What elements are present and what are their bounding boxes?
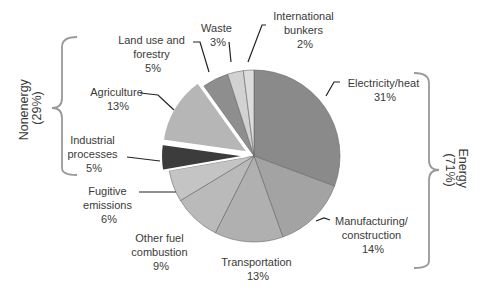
label-transportation: Transportation 13% [221,256,295,282]
label-electricity: Electricity/heat 31% [348,77,423,103]
leader-waste [229,42,231,62]
label-agriculture: Agriculture 13% [90,86,146,112]
leader-land-use [193,42,209,72]
nonenergy-label: Nonenergy (29%) [17,76,44,141]
label-manufacturing: Manufacturing/ construction 14% [335,215,411,255]
pie-slices [161,70,340,242]
energy-label: Energy (71%) [443,148,470,191]
label-other-fuel: Other fuel combustion 9% [131,232,190,272]
label-industrial: Industrial processes 5% [67,134,120,174]
leader-bunkers [248,25,266,62]
energy-bracket [414,73,439,268]
label-bunkers: International bunkers 2% [273,10,337,50]
leader-manufacturing [316,218,330,221]
label-waste: Waste 3% [201,22,235,48]
label-land-use: Land use and forestry 5% [118,34,188,74]
pie-chart: Nonenergy (29%) Energy (71%) Electricity… [0,0,491,292]
leader-industrial [127,157,160,161]
leader-electricity [326,82,340,96]
label-fugitive: Fugitive emissions 6% [83,185,135,225]
